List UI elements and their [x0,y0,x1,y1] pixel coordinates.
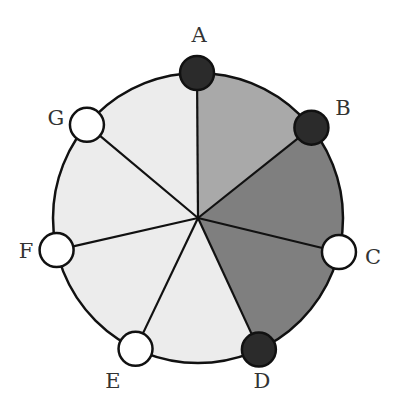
vertex-b [294,111,328,145]
vertex-c [322,235,356,269]
vertex-g [70,108,104,142]
vertex-label-f: F [19,239,34,263]
vertex-e [119,332,153,366]
vertex-a [180,56,214,90]
vertex-label-d: D [254,369,271,393]
vertex-label-e: E [105,369,120,393]
vertex-label-c: C [365,245,381,269]
spoke-a [197,73,198,218]
vertex-label-b: B [335,96,350,120]
vertex-f [40,233,74,267]
vertex-d [242,333,276,367]
circle-sector-diagram: A B C D E F G [0,0,409,413]
vertex-label-g: G [48,106,65,130]
vertex-label-a: A [190,23,207,47]
